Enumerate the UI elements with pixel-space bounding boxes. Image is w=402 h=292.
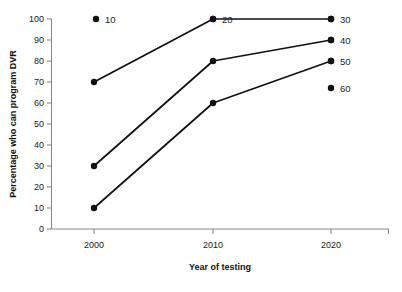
annotation-marker-50	[328, 58, 334, 64]
line-chart: 100 90 80 70 60 50 40 30 20 10 0 2000 20…	[0, 0, 402, 292]
x-axis-title: Year of testing	[189, 262, 251, 272]
annotation-label-40: 40	[340, 35, 351, 46]
y-tick-label-50: 50	[34, 119, 44, 129]
x-tick-label-2000: 2000	[84, 240, 104, 250]
annotation-label-10: 10	[105, 14, 116, 25]
x-tick-label-2010: 2010	[203, 240, 223, 250]
annotation-label-50: 50	[340, 56, 351, 67]
y-tick-label-30: 30	[34, 161, 44, 171]
y-tick-label-80: 80	[34, 56, 44, 66]
annotation-marker-30	[328, 16, 334, 22]
y-tick-label-60: 60	[34, 98, 44, 108]
y-tick-label-0: 0	[39, 224, 44, 234]
data-point	[210, 58, 216, 64]
y-tick-label-70: 70	[34, 77, 44, 87]
annotation-marker-60	[328, 85, 334, 91]
annotation-label-60: 60	[340, 83, 351, 94]
annotation-marker-40	[328, 37, 334, 43]
chart-container: 100 90 80 70 60 50 40 30 20 10 0 2000 20…	[0, 0, 402, 292]
x-tick-label-2020: 2020	[321, 240, 341, 250]
data-point	[210, 100, 216, 106]
annotation-label-20: 20	[222, 14, 233, 25]
y-tick-label-40: 40	[34, 140, 44, 150]
annotation-label-30: 30	[340, 14, 351, 25]
y-axis-title: Percentage who can program DVR	[8, 50, 18, 198]
annotation-marker-20	[210, 16, 216, 22]
data-point	[91, 79, 97, 85]
annotation-marker-10	[93, 16, 99, 22]
y-tick-label-90: 90	[34, 35, 44, 45]
y-tick-label-20: 20	[34, 182, 44, 192]
data-point	[91, 205, 97, 211]
y-tick-label-10: 10	[34, 203, 44, 213]
y-tick-label-100: 100	[29, 14, 44, 24]
data-point	[91, 163, 97, 169]
